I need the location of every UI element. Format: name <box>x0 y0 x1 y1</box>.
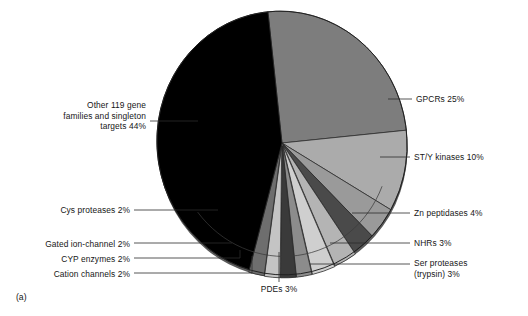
slice-label-sty-kinases: ST/Y kinases 10% <box>414 152 484 163</box>
slice-label-pdes: PDEs 3% <box>234 284 324 295</box>
panel-tag: (a) <box>16 292 27 302</box>
slice-label-nhrs: NHRs 3% <box>414 238 451 249</box>
slice-label-zn-peptidases: Zn peptidases 4% <box>414 208 483 219</box>
pie-chart-figure: GPCRs 25%ST/Y kinases 10%Zn peptidases 4… <box>0 0 528 316</box>
slice-label-cys-proteases: Cys proteases 2% <box>0 205 130 216</box>
slice-label-cation-channels: Cation channels 2% <box>0 269 130 280</box>
slice-label-gpcrs: GPCRs 25% <box>416 94 464 105</box>
slice-label-gated-ion-channel: Gated ion-channel 2% <box>0 239 130 250</box>
slice-label-ser-proteases: Ser proteases (trypsin) 3% <box>414 258 467 279</box>
pie-slices-group: GPCRs 25%ST/Y kinases 10%Zn peptidases 4… <box>140 0 425 294</box>
slice-label-cyp-enzymes: CYP enzymes 2% <box>0 254 130 265</box>
pie-slice[interactable]: GPCRs 25% <box>264 0 407 148</box>
slice-label-other: Other 119 gene families and singleton ta… <box>0 100 146 132</box>
